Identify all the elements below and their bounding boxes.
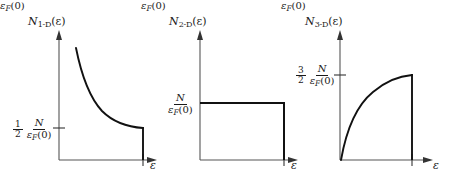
y-tick-label-3d: 3 2 N εF(0) xyxy=(295,64,338,88)
y-tick-coefficient-1d: 1 2 xyxy=(13,120,23,140)
y-axis-arrowhead-2d xyxy=(197,30,203,40)
y-tick-value-den-arg-2d: (0) xyxy=(179,104,193,115)
x-axis-arrowhead-3d xyxy=(423,157,433,163)
y-tick-coefficient-den-1d: 2 xyxy=(13,130,23,139)
y-tick-coefficient-3d: 3 2 xyxy=(296,66,306,86)
panel-2d-title-main: N xyxy=(169,15,179,28)
panel-2d-title-sub: 2-D xyxy=(179,20,193,29)
panel-3d-title-arg: (ε) xyxy=(328,15,342,28)
panel-2d-title: N2-D(ε) xyxy=(169,16,207,29)
panel-2d-title-arg: (ε) xyxy=(192,15,206,28)
y-tick-value-1d: N εF(0) xyxy=(25,118,54,142)
y-axis-arrowhead-1d xyxy=(56,30,62,40)
panel-1d-title-main: N xyxy=(28,15,38,28)
y-tick-value-den-arg-1d: (0) xyxy=(37,129,51,140)
panel-2d: N2-D(ε) N εF(0) εF(0) ε xyxy=(141,0,301,189)
y-tick-value-den-2d: εF(0) xyxy=(166,105,195,117)
y-tick-label-2d: N εF(0) xyxy=(165,93,196,117)
density-of-states-figure: N1-D(ε) 1 2 N εF(0) εF(0) ε N2-D(ε) xyxy=(0,0,475,189)
panel-3d-title-sub: 3-D xyxy=(315,20,329,29)
panel-3d-title: N3-D(ε) xyxy=(305,16,343,29)
plot-area-1d xyxy=(0,0,160,189)
panel-1d-title-arg: (ε) xyxy=(51,15,65,28)
y-tick-value-den-3d: εF(0) xyxy=(308,76,337,88)
panel-3d-title-main: N xyxy=(305,15,315,28)
panel-1d-title-sub: 1-D xyxy=(38,20,52,29)
x-axis-label-3d: ε xyxy=(433,160,439,171)
y-tick-label-1d: 1 2 N εF(0) xyxy=(12,118,55,142)
curve-1d xyxy=(76,48,143,128)
panel-1d-title: N1-D(ε) xyxy=(28,16,66,29)
curve-3d xyxy=(341,75,412,160)
y-tick-value-2d: N εF(0) xyxy=(166,93,195,117)
y-axis-arrowhead-3d xyxy=(337,30,343,40)
panel-3d: N3-D(ε) 3 2 N εF(0) εF(0) ε xyxy=(281,0,441,189)
y-tick-value-den-1d: εF(0) xyxy=(25,130,54,142)
y-tick-value-3d: N εF(0) xyxy=(308,64,337,88)
panel-1d: N1-D(ε) 1 2 N εF(0) εF(0) ε xyxy=(0,0,160,189)
y-tick-coefficient-den-3d: 2 xyxy=(296,76,306,85)
y-tick-value-den-arg-3d: (0) xyxy=(320,75,334,86)
